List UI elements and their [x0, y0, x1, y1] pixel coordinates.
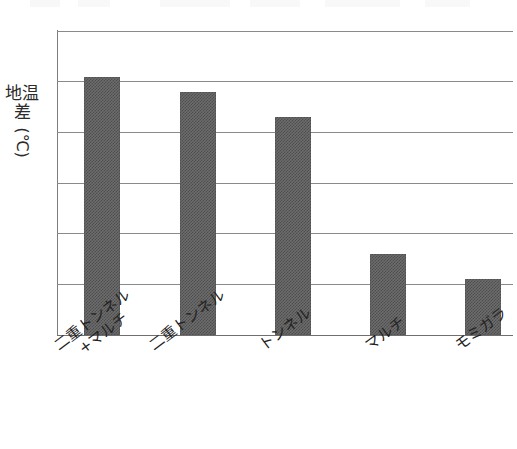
bar-chart-figure: 地温差 (℃) 6 5 4 3 2 1 0 二重トンネル +マルチ	[0, 0, 517, 449]
bar-2	[275, 117, 311, 335]
y-axis-title-unit: (℃)	[13, 125, 32, 161]
gridline-5	[57, 81, 513, 82]
y-axis-title: 地温差 (℃)	[4, 84, 40, 152]
gridline-6	[57, 31, 513, 32]
scan-artifact-strip	[0, 0, 517, 7]
y-axis-title-main: 地温差	[4, 84, 40, 122]
